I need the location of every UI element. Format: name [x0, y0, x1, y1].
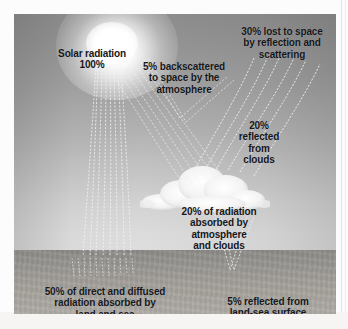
scan-edge-line: [341, 0, 342, 329]
ray-bundle-ground-contact: [72, 258, 133, 276]
label-absorbed-by-land-and-sea: 50% of direct and diffused radiation abs…: [22, 286, 188, 314]
page-canvas: Solar radiation 100% 5% backscattered to…: [0, 0, 348, 329]
radiation-budget-figure: Solar radiation 100% 5% backscattered to…: [14, 14, 336, 314]
label-absorbed-by-atmosphere: 20% of radiation absorbed by atmosphere …: [154, 206, 284, 252]
scan-bottom-wash: [0, 312, 348, 329]
ray-bundle-downward: [83, 66, 131, 256]
label-reflected-from-clouds: 20% reflected from clouds: [230, 120, 288, 166]
label-lost-to-space: 30% lost to space by reflection and scat…: [228, 26, 336, 60]
scan-edge-line-outer: [345, 0, 346, 329]
label-backscattered-to-space: 5% backscattered to space by the atmosph…: [130, 61, 238, 95]
label-reflected-from-surface: 5% reflected from land-sea surface: [206, 296, 330, 314]
